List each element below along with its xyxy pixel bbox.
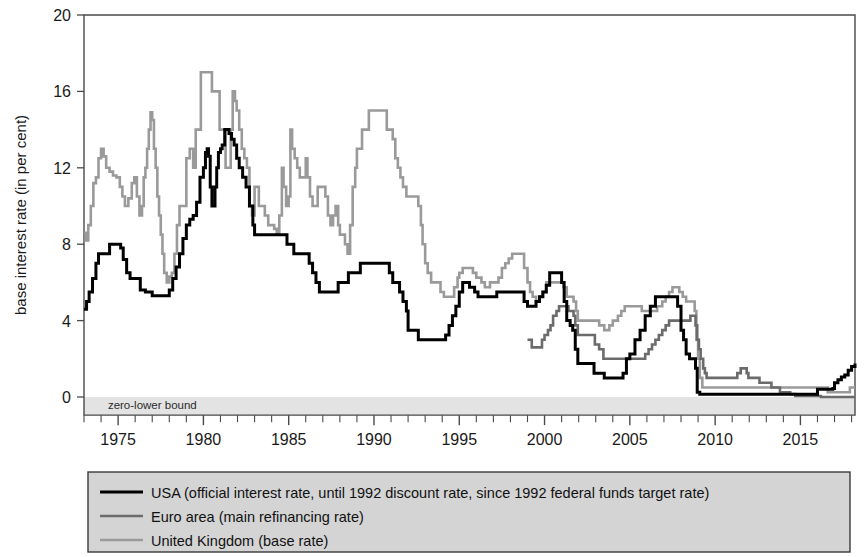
legend-label: Euro area (main refinancing rate) xyxy=(151,509,364,525)
series-line-united-kingdom xyxy=(84,72,855,392)
legend-label: United Kingdom (base rate) xyxy=(151,533,328,549)
x-tick-label: 1975 xyxy=(100,431,136,448)
y-tick-label: 20 xyxy=(53,7,71,24)
x-axis: 197519801985199019952000200520102015 xyxy=(84,415,852,448)
y-tick-label: 4 xyxy=(62,313,71,330)
x-tick-label: 1990 xyxy=(356,431,392,448)
zero-lower-bound-label: zero-lower bound xyxy=(108,399,197,411)
y-tick-label: 12 xyxy=(53,160,71,177)
y-axis-title-group: base interest rate (in per cent) xyxy=(12,115,29,315)
y-axis: 048121620 xyxy=(53,7,84,406)
x-tick-label: 1985 xyxy=(271,431,307,448)
chart-canvas: 048121620 197519801985199019952000200520… xyxy=(0,0,865,557)
data-series-group xyxy=(84,72,855,397)
zero-lower-bound-band-group xyxy=(84,397,855,415)
y-tick-label: 16 xyxy=(53,83,71,100)
chart-annotations: zero-lower bound xyxy=(108,399,197,411)
x-tick-label: 1980 xyxy=(186,431,222,448)
legend-label: USA (official interest rate, until 1992 … xyxy=(151,485,709,501)
y-tick-label: 8 xyxy=(62,236,71,253)
y-axis-title: base interest rate (in per cent) xyxy=(12,115,29,315)
chart-legend: USA (official interest rate, until 1992 … xyxy=(88,472,850,552)
x-tick-label: 1995 xyxy=(441,431,477,448)
x-tick-label: 2000 xyxy=(527,431,563,448)
interest-rate-chart-figure: 048121620 197519801985199019952000200520… xyxy=(0,0,865,557)
x-tick-label: 2010 xyxy=(697,431,733,448)
series-line-usa xyxy=(84,130,855,395)
zero-lower-bound-band xyxy=(84,397,855,415)
y-tick-label: 0 xyxy=(62,389,71,406)
x-tick-label: 2015 xyxy=(783,431,819,448)
x-tick-label: 2005 xyxy=(612,431,648,448)
